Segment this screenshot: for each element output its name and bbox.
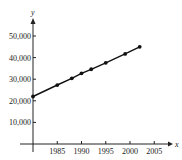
- y-tick-label: 10,000: [9, 118, 31, 127]
- data-point: [89, 67, 93, 71]
- x-tick-label: 1985: [49, 147, 65, 156]
- x-tick-label: 1990: [74, 147, 90, 156]
- y-tick-label: 30,000: [9, 75, 31, 84]
- x-tick-label: 2000: [122, 147, 138, 156]
- y-axis-arrow-icon: [31, 18, 36, 24]
- y-axis-label: y: [30, 8, 35, 17]
- x-tick-label: 2005: [146, 147, 162, 156]
- x-axis-label: x: [174, 140, 179, 149]
- data-point: [80, 71, 84, 75]
- y-tick-label: 20,000: [9, 97, 31, 106]
- data-point: [55, 83, 59, 87]
- x-axis-arrow-icon: [168, 142, 173, 147]
- data-point: [123, 52, 127, 56]
- x-tick-label: 1995: [98, 147, 114, 156]
- data-point: [104, 61, 108, 65]
- y-tick-label: 50,000: [9, 32, 31, 41]
- line-chart: xy1985199019952000200510,00020,00030,000…: [0, 0, 182, 160]
- data-point: [138, 45, 142, 49]
- data-point: [31, 95, 35, 99]
- axes: xy1985199019952000200510,00020,00030,000…: [9, 8, 179, 156]
- data-series: [31, 45, 142, 98]
- y-tick-label: 40,000: [9, 54, 31, 63]
- data-point: [70, 76, 74, 80]
